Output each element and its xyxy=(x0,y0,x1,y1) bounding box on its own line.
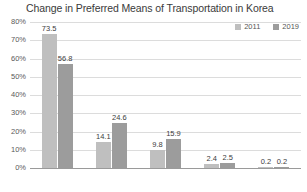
bar-car-2011[interactable]: 73.5 xyxy=(42,34,57,168)
y-axis-tick-label: 80% xyxy=(11,18,26,26)
bar-ship-2011[interactable]: 0.2 xyxy=(258,167,273,168)
bar-value-label: 56.8 xyxy=(58,55,73,63)
bar-airplane-2011[interactable]: 2.4 xyxy=(204,164,219,168)
y-axis-tick-label: 60% xyxy=(11,55,26,63)
bar-value-label: 0.2 xyxy=(277,158,287,166)
bar-group: 9.815.9 xyxy=(150,22,181,168)
y-axis-tick-label: 30% xyxy=(11,109,26,117)
y-axis-tick-label: 50% xyxy=(11,73,26,81)
plot-area: 0%10%20%30%40%50%60%70%80%73.556.8Car14.… xyxy=(30,22,301,168)
bar-airplane-2019[interactable]: 2.5 xyxy=(220,163,235,168)
bar-value-label: 24.6 xyxy=(112,114,127,122)
y-axis-tick-label: 0% xyxy=(15,164,26,172)
bar-bus-2011[interactable]: 14.1 xyxy=(96,142,111,168)
bar-train-2019[interactable]: 15.9 xyxy=(166,139,181,168)
bar-value-label: 2.4 xyxy=(206,155,216,163)
y-axis-tick-label: 20% xyxy=(11,128,26,136)
y-axis-tick-label: 10% xyxy=(11,146,26,154)
bar-value-label: 0.2 xyxy=(261,158,271,166)
bar-car-2019[interactable]: 56.8 xyxy=(58,64,73,168)
chart-title: Change in Preferred Means of Transportat… xyxy=(26,1,304,16)
bar-ship-2019[interactable]: 0.2 xyxy=(274,167,289,168)
bar-value-label: 73.5 xyxy=(42,25,57,33)
bar-group: 73.556.8 xyxy=(42,22,73,168)
bar-value-label: 9.8 xyxy=(152,141,162,149)
bar-group: 14.124.6 xyxy=(96,22,127,168)
bar-group: 2.42.5 xyxy=(204,22,235,168)
chart-container: Change in Preferred Means of Transportat… xyxy=(0,0,307,192)
y-axis-tick-label: 70% xyxy=(11,36,26,44)
bar-value-label: 2.5 xyxy=(222,154,232,162)
bar-value-label: 14.1 xyxy=(96,133,111,141)
bar-bus-2019[interactable]: 24.6 xyxy=(112,123,127,168)
gridline xyxy=(30,168,301,169)
y-axis-tick-label: 40% xyxy=(11,91,26,99)
bar-train-2011[interactable]: 9.8 xyxy=(150,150,165,168)
bar-group: 0.20.2 xyxy=(258,22,289,168)
bar-value-label: 15.9 xyxy=(166,130,181,138)
